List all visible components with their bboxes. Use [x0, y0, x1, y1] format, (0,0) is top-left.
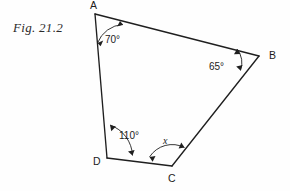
angle-arc-c	[150, 145, 185, 157]
angle-label-d: 110°	[119, 130, 139, 141]
vertex-label-a: A	[90, 0, 97, 11]
side-bc	[172, 56, 259, 166]
angle-arrowhead-a-end	[117, 21, 123, 27]
angle-arrowhead-d-end	[128, 150, 135, 156]
geometry-figure: Fig. 21.2 70° 65° 110°	[0, 0, 290, 191]
angle-marker-a: 70°	[98, 21, 124, 46]
angle-label-b: 65°	[209, 61, 224, 72]
figure-caption: Fig. 21.2	[12, 20, 63, 35]
angle-arrowhead-c-start	[150, 156, 156, 162]
vertex-label-d: D	[93, 155, 101, 167]
angle-arrowhead-d-start	[110, 125, 116, 131]
angle-label-a: 70°	[105, 34, 120, 45]
figure-page: Fig. 21.2 70° 65° 110°	[0, 0, 290, 191]
vertex-label-c: C	[168, 172, 176, 184]
angle-marker-b: 65°	[209, 49, 243, 72]
angle-marker-d: 110°	[110, 125, 139, 156]
vertex-label-b: B	[269, 49, 276, 61]
angle-label-c: x	[162, 135, 168, 146]
side-cd	[107, 158, 172, 166]
